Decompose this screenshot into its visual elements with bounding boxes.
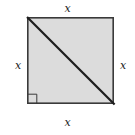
side-label-left: x xyxy=(13,60,23,71)
side-label-bottom: x xyxy=(0,117,135,128)
side-label-right: x xyxy=(118,60,128,71)
geometry-figure: x x x x xyxy=(0,0,135,135)
side-label-top: x xyxy=(0,3,135,14)
